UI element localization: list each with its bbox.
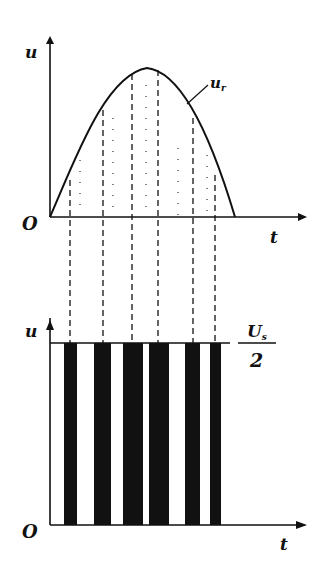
pulse-2 [94,343,111,525]
top-plot: u t O ur [22,36,307,247]
reference-sine-curve [50,68,235,217]
bottom-plot: u t O Us 2 [22,318,307,554]
pulse-1 [64,343,77,525]
curve-leader-line [187,85,208,104]
level-label-numerator: Us [247,321,267,342]
sampling-dots [80,85,207,215]
pulse-3 [123,343,143,525]
pulse-4 [149,343,169,525]
top-origin-label: O [22,213,38,234]
pwm-diagram: u t O ur u t O Us 2 [0,0,331,575]
bottom-x-label: t [280,534,288,554]
bottom-origin-label: O [22,521,38,542]
top-x-label: t [270,227,278,247]
top-y-arrow-icon [46,36,54,44]
bottom-x-arrow-icon [296,521,307,529]
pulse-6 [210,343,221,525]
bottom-y-label: u [25,321,37,341]
pwm-pulses [64,343,221,525]
pulse-5 [185,343,200,525]
level-label-denominator: 2 [249,349,263,371]
bottom-y-arrow-icon [46,320,54,330]
curve-label: ur [210,74,227,93]
top-y-label: u [25,42,37,62]
top-x-arrow-icon [298,213,307,221]
